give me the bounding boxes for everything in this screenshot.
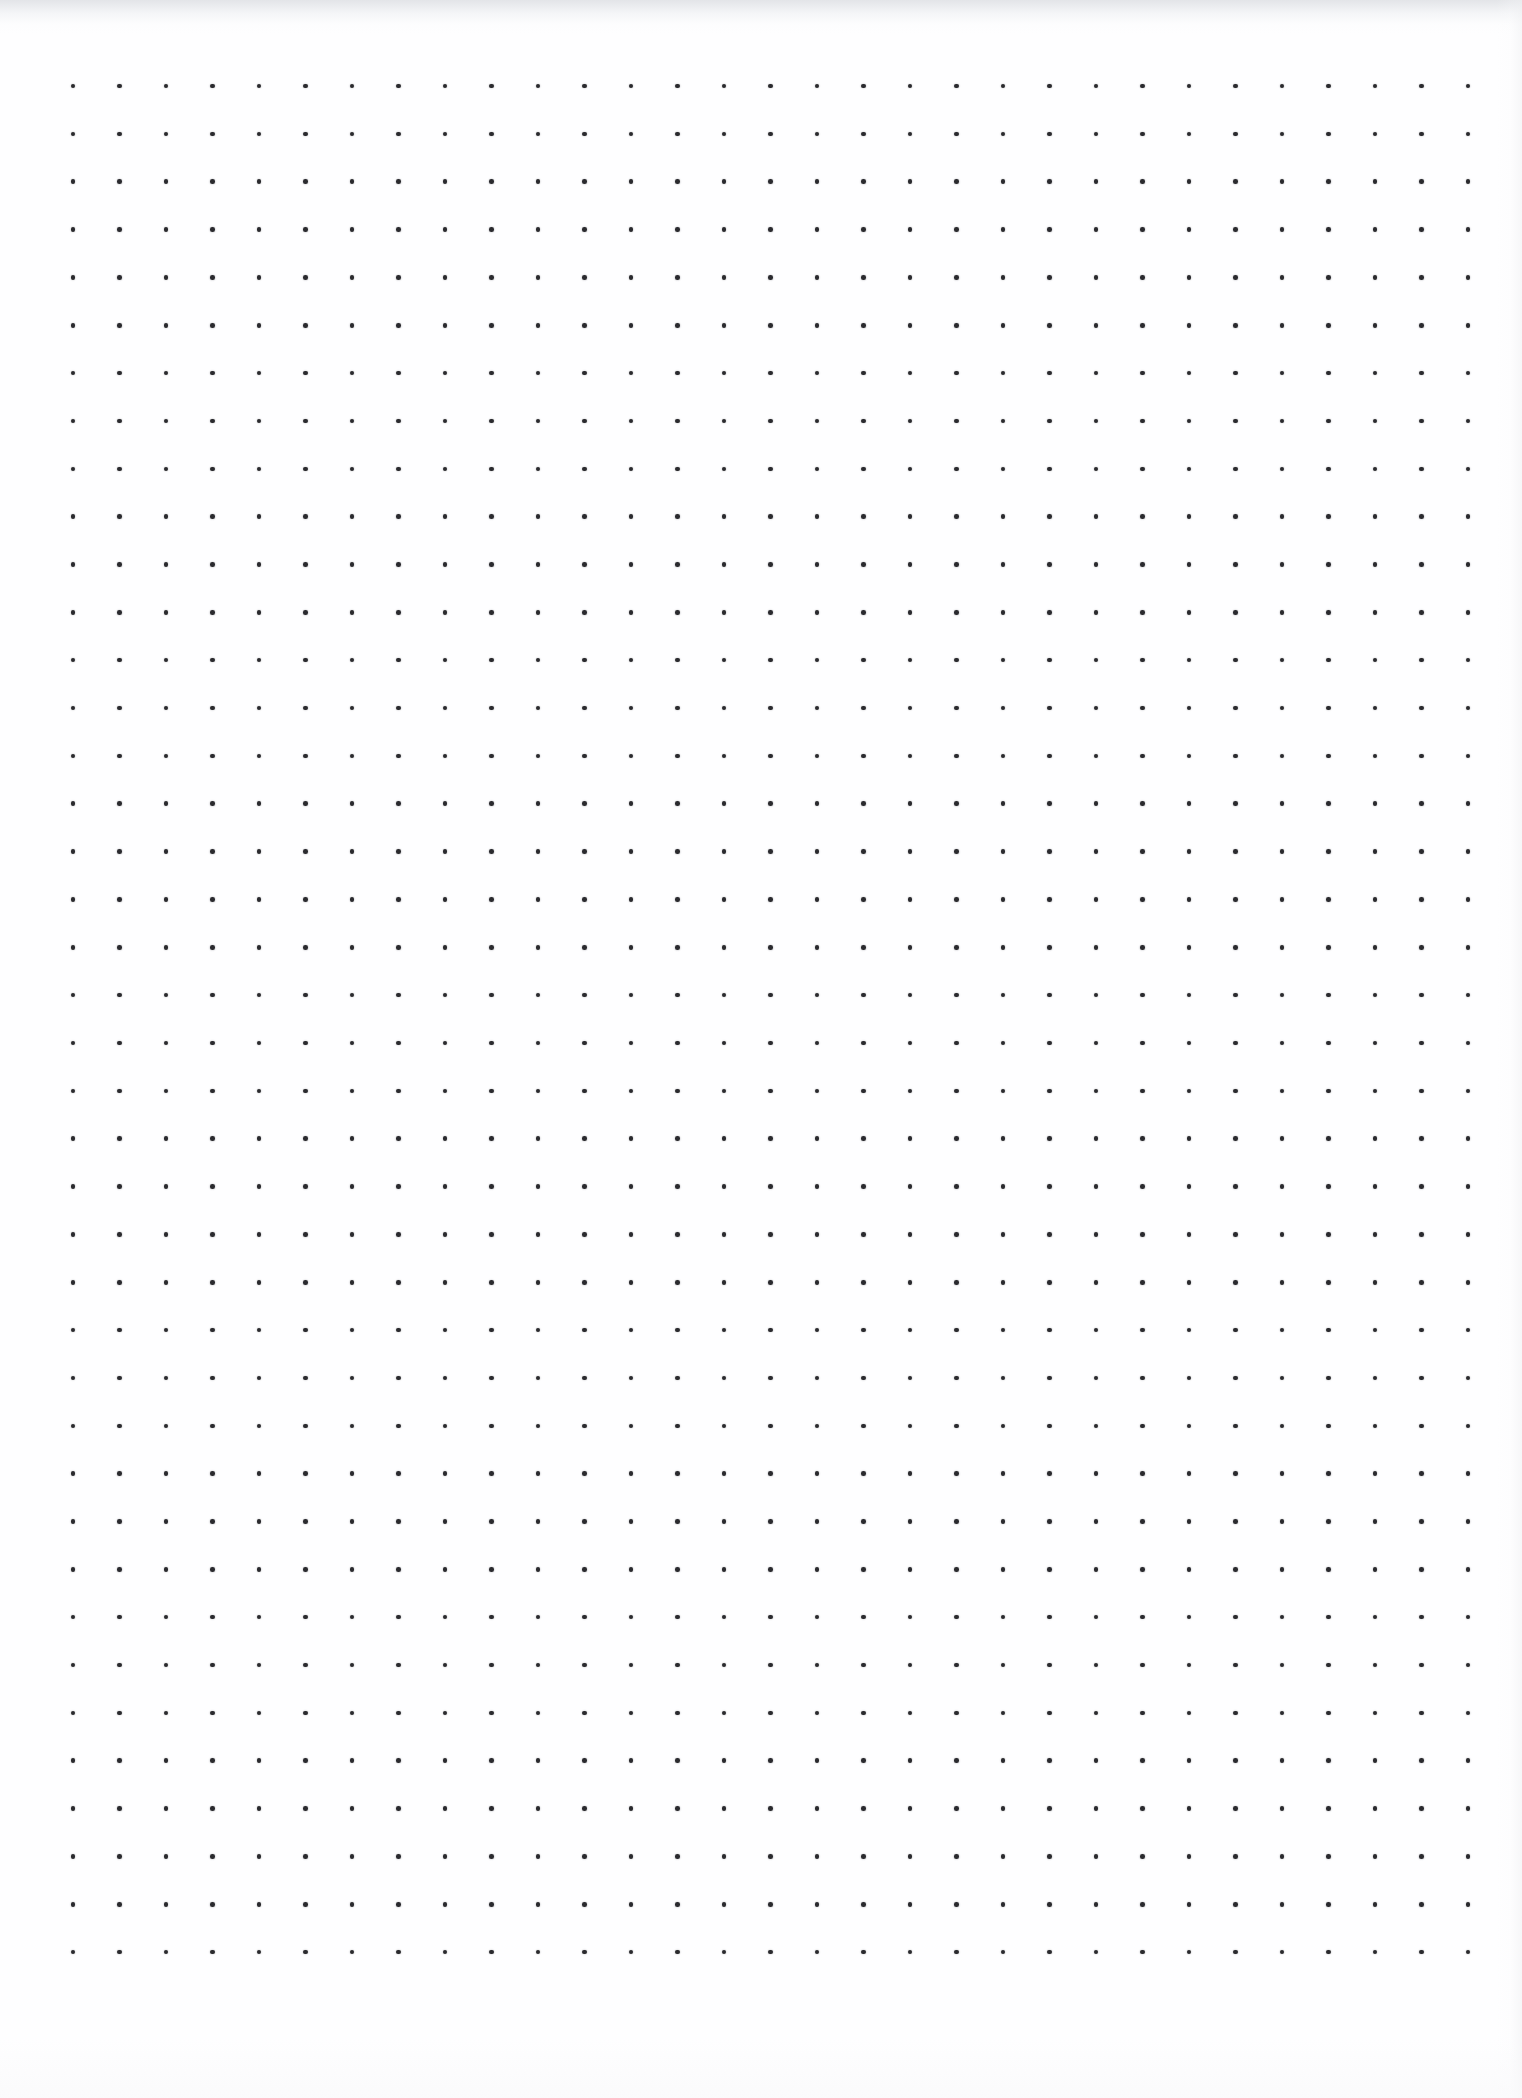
grid-dot: [303, 849, 308, 854]
grid-dot: [861, 658, 866, 663]
grid-dot: [954, 1758, 959, 1763]
grid-dot: [1233, 1950, 1238, 1955]
grid-dot: [303, 1854, 308, 1859]
grid-dot: [1094, 849, 1099, 854]
grid-dot: [722, 323, 727, 328]
grid-dot: [1466, 849, 1471, 854]
grid-dot: [629, 275, 634, 280]
grid-dot: [1373, 658, 1378, 663]
grid-dot: [1233, 754, 1238, 759]
grid-dot: [303, 179, 308, 184]
grid-dot: [1047, 1089, 1052, 1094]
grid-dot: [815, 179, 820, 184]
grid-dot: [908, 1758, 913, 1763]
grid-dot: [768, 801, 773, 806]
grid-dot: [1140, 1519, 1145, 1524]
grid-dot: [1140, 1184, 1145, 1189]
grid-dot: [350, 1758, 355, 1763]
grid-dot: [675, 801, 680, 806]
grid-dot: [1466, 801, 1471, 806]
grid-dot: [164, 1471, 169, 1476]
grid-dot: [350, 1519, 355, 1524]
grid-dot: [1140, 1758, 1145, 1763]
grid-dot: [71, 1376, 76, 1381]
grid-dot: [908, 754, 913, 759]
grid-dot: [582, 1854, 587, 1859]
grid-dot: [768, 945, 773, 950]
grid-dot: [257, 323, 262, 328]
grid-dot: [861, 1136, 866, 1141]
grid-dot: [489, 1376, 494, 1381]
grid-dot: [1094, 419, 1099, 424]
grid-dot: [1001, 323, 1006, 328]
grid-dot: [257, 1663, 262, 1668]
grid-dot: [861, 84, 866, 89]
grid-dot: [1047, 1615, 1052, 1620]
grid-dot: [257, 1089, 262, 1094]
grid-dot: [629, 754, 634, 759]
grid-dot: [210, 419, 215, 424]
grid-dot: [71, 1519, 76, 1524]
grid-dot: [210, 1758, 215, 1763]
grid-dot: [675, 754, 680, 759]
grid-dot: [815, 1184, 820, 1189]
grid-dot: [815, 897, 820, 902]
grid-dot: [350, 945, 355, 950]
grid-dot: [629, 1089, 634, 1094]
grid-dot: [164, 84, 169, 89]
grid-dot: [257, 1471, 262, 1476]
grid-dot: [768, 227, 773, 232]
grid-dot: [861, 1663, 866, 1668]
grid-dot: [489, 801, 494, 806]
grid-dot: [71, 1041, 76, 1046]
grid-dot: [117, 1376, 122, 1381]
grid-dot: [1466, 1950, 1471, 1955]
grid-dot: [536, 1615, 541, 1620]
grid-dot: [1280, 1136, 1285, 1141]
grid-dot: [1233, 1280, 1238, 1285]
grid-dot: [71, 371, 76, 376]
grid-dot: [675, 897, 680, 902]
grid-dot: [1280, 1184, 1285, 1189]
grid-dot: [1094, 1950, 1099, 1955]
grid-dot: [396, 323, 401, 328]
grid-dot: [768, 1950, 773, 1955]
grid-dot: [257, 1567, 262, 1572]
grid-dot: [1047, 1950, 1052, 1955]
grid-dot: [908, 897, 913, 902]
grid-dot: [1094, 1280, 1099, 1285]
grid-dot: [675, 1854, 680, 1859]
grid-dot: [861, 945, 866, 950]
grid-dot: [210, 945, 215, 950]
grid-dot: [536, 1567, 541, 1572]
grid-dot: [1140, 610, 1145, 615]
grid-dot: [489, 1184, 494, 1189]
grid-dot: [629, 1328, 634, 1333]
grid-dot: [210, 706, 215, 711]
grid-dot: [815, 754, 820, 759]
grid-dot: [861, 849, 866, 854]
grid-dot: [954, 1089, 959, 1094]
grid-dot: [1419, 1615, 1424, 1620]
grid-dot: [582, 562, 587, 567]
dot-grid-layer[interactable]: [0, 0, 1522, 2098]
grid-dot: [536, 1232, 541, 1237]
grid-dot: [768, 1567, 773, 1572]
grid-dot: [861, 1950, 866, 1955]
grid-dot: [350, 1328, 355, 1333]
grid-dot: [443, 514, 448, 519]
grid-dot: [908, 1902, 913, 1907]
grid-dot: [303, 84, 308, 89]
grid-dot: [536, 323, 541, 328]
grid-dot: [257, 1280, 262, 1285]
grid-dot: [1047, 897, 1052, 902]
grid-dot: [303, 1232, 308, 1237]
grid-dot: [71, 1950, 76, 1955]
grid-dot: [629, 1519, 634, 1524]
grid-dot: [489, 1711, 494, 1716]
grid-dot: [1233, 1376, 1238, 1381]
grid-dot: [1001, 1280, 1006, 1285]
grid-dot: [1140, 993, 1145, 998]
grid-dot: [117, 1854, 122, 1859]
grid-dot: [768, 467, 773, 472]
